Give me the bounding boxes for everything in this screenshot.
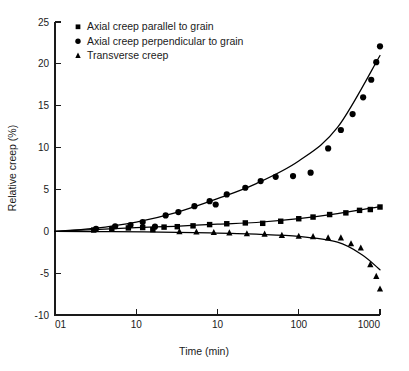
data-point-circle: [207, 198, 213, 204]
data-point-square: [310, 214, 315, 219]
data-point-triangle: [367, 261, 373, 267]
y-tick-label: -5: [40, 268, 49, 279]
legend-label: Axial creep perpendicular to grain: [87, 35, 244, 47]
data-point-square: [377, 204, 382, 209]
x-tick-label: 100: [290, 319, 307, 330]
data-point-triangle: [310, 233, 316, 239]
data-point-square: [368, 207, 373, 212]
legend-item[interactable]: Transverse creep: [75, 49, 168, 61]
legend-label: Axial creep parallel to grain: [87, 20, 214, 32]
series-markers-square: [91, 204, 383, 232]
x-axis-tick-labels: 0110101001000: [55, 319, 380, 330]
data-point-square: [296, 216, 301, 221]
data-point-square: [190, 223, 195, 228]
data-point-triangle: [325, 234, 331, 240]
data-point-triangle: [348, 240, 354, 246]
data-point-circle: [93, 226, 99, 232]
series-group: [55, 43, 383, 291]
y-tick-label: 10: [38, 142, 50, 153]
data-point-triangle: [377, 285, 383, 291]
data-point-circle: [350, 111, 356, 117]
data-point-circle: [273, 174, 279, 180]
data-point-square: [343, 210, 348, 215]
legend-item[interactable]: Axial creep parallel to grain: [76, 20, 214, 32]
data-point-circle: [308, 170, 314, 176]
data-point-circle: [140, 219, 146, 225]
fit-curve-triangle: [55, 231, 380, 270]
x-tick-label: 1000: [358, 319, 381, 330]
legend-label: Transverse creep: [87, 49, 168, 61]
data-point-circle: [152, 224, 158, 230]
data-point-circle: [191, 203, 197, 209]
y-axis-ticks: [55, 22, 61, 315]
legend-marker-triangle: [75, 53, 80, 58]
data-point-circle: [338, 127, 344, 133]
y-tick-label: 25: [38, 17, 50, 28]
data-point-circle: [213, 201, 219, 207]
y-tick-label: 15: [38, 100, 50, 111]
data-point-square: [327, 212, 332, 217]
data-point-square: [140, 225, 145, 230]
data-point-circle: [360, 94, 366, 100]
data-point-triangle: [358, 244, 364, 250]
data-point-triangle: [226, 229, 232, 235]
data-point-circle: [258, 178, 264, 184]
data-point-triangle: [193, 228, 199, 234]
data-point-circle: [325, 145, 331, 151]
chart-figure: 0110101001000 2520151050-5-10 Axial cree…: [0, 0, 409, 371]
data-point-circle: [373, 59, 379, 65]
axis-lines: [55, 22, 380, 315]
data-point-circle: [377, 43, 383, 49]
legend-item[interactable]: Axial creep perpendicular to grain: [75, 35, 243, 47]
data-point-markers: [91, 43, 383, 291]
data-point-triangle: [262, 231, 268, 237]
data-point-circle: [224, 191, 230, 197]
data-point-triangle: [244, 230, 250, 236]
data-point-square: [161, 224, 166, 229]
x-axis-title: Time (min): [179, 345, 229, 357]
data-point-triangle: [373, 273, 379, 279]
data-point-square: [278, 219, 283, 224]
y-axis-tick-labels: 2520151050-5-10: [35, 17, 50, 321]
fit-curves: [55, 55, 380, 269]
y-axis-title: Relative creep (%): [6, 125, 18, 211]
legend-marker-square: [76, 24, 81, 29]
x-axis-ticks: [55, 309, 380, 315]
data-point-square: [207, 222, 212, 227]
y-tick-label: -10: [35, 310, 50, 321]
x-tick-label: 01: [55, 319, 67, 330]
data-point-circle: [112, 223, 118, 229]
data-point-circle: [175, 209, 181, 215]
data-point-square: [260, 221, 265, 226]
y-tick-label: 0: [43, 226, 49, 237]
data-point-square: [243, 220, 248, 225]
data-point-circle: [242, 185, 248, 191]
data-point-circle: [368, 77, 374, 83]
data-point-circle: [163, 212, 169, 218]
legend: Axial creep parallel to grainAxial creep…: [75, 20, 243, 61]
axes-group: 0110101001000 2520151050-5-10: [35, 17, 381, 331]
y-tick-label: 20: [38, 58, 50, 69]
x-tick-label: 10: [212, 319, 224, 330]
series-markers-circle: [93, 43, 383, 232]
x-tick-label: 10: [131, 319, 143, 330]
data-point-square: [357, 208, 362, 213]
data-point-triangle: [338, 234, 344, 240]
data-point-triangle: [211, 229, 217, 235]
series-markers-triangle: [176, 228, 383, 291]
creep-vs-time-chart: 0110101001000 2520151050-5-10 Axial cree…: [0, 0, 409, 371]
y-tick-label: 5: [43, 184, 49, 195]
data-point-circle: [127, 222, 133, 228]
data-point-square: [224, 221, 229, 226]
data-point-circle: [290, 173, 296, 179]
legend-marker-circle: [75, 39, 80, 44]
